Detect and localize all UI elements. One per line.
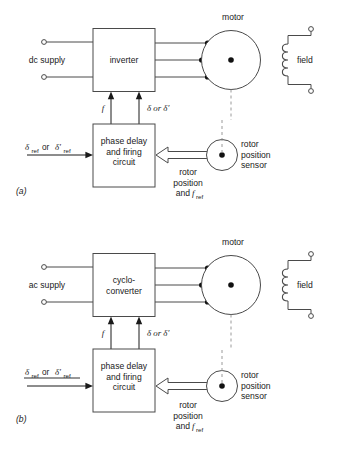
ref-first-subscript-b: ref [32,372,40,379]
ref-second-symbol-a: δ′ [55,142,62,152]
freq-arrow-head-a [108,92,114,100]
feedback-label-line2-a: position [173,178,203,188]
motor-label-a: motor [222,12,244,22]
sensor-label-line3-b: sensor [241,391,267,401]
sensor-center-a [219,152,225,158]
delta-arrow-head-a [136,92,142,100]
field-label-b: field [297,280,313,290]
supply-label-a: dc supply [29,55,66,65]
converter-label-line1-b: cyclo- [113,275,136,285]
feedback-label-line1-b: rotor [179,400,197,410]
motor-shaft-center-b [228,282,234,288]
diagram-panel-b: ac supply cyclo- converter motor field f… [0,225,339,449]
field-coil-a [282,44,288,76]
feedback-and-word-a: and [176,188,191,198]
sensor-label-line1-b: rotor [241,370,259,380]
field-coil-b [282,269,288,301]
figure-page: dc supply inverter motor field f δ or δ′… [0,0,339,449]
sensor-label-line3-a: sensor [241,160,267,170]
field-lead-top-a [288,31,311,44]
control-label-line3-a: circuit [113,157,136,167]
control-label-line2-b: and firing [106,372,142,382]
control-label-line3-b: circuit [113,382,136,392]
supply-terminal-bottom-a [42,75,47,80]
field-terminal-bottom-a [309,89,314,94]
control-label-line1-a: phase delay [101,136,148,146]
field-lead-bottom-a [288,76,311,89]
sensor-label-line2-b: position [241,381,271,391]
ref-input-label-b: δ ref or δ′ ref [25,367,71,379]
supply-label-b: ac supply [29,280,66,290]
converter-label-line2-b: converter [106,286,142,296]
feedback-block-arrow-a [156,147,208,163]
feedback-subscript-a: ref [196,193,204,200]
panel-caption-b: (b) [16,414,27,424]
panel-caption-a: (a) [16,186,27,196]
freq-arrow-head-b [108,317,114,325]
field-terminal-bottom-b [309,314,314,319]
ref-connector-b: or [42,368,50,377]
field-label-a: field [297,55,313,65]
feedback-subscript-b: ref [196,426,204,433]
supply-terminal-bottom-b [42,300,47,305]
sensor-label-line1-a: rotor [241,139,259,149]
diagram-panel-a: dc supply inverter motor field f δ or δ′… [0,0,339,225]
ref-input-label-a: δ ref or δ′ ref [25,142,71,154]
control-label-line2-a: and firing [106,147,142,157]
ref-first-subscript-a: ref [32,147,40,154]
field-terminal-top-b [309,252,314,257]
ref-second-subscript-b: ref [64,372,72,379]
ref-first-symbol-a: δ [25,142,30,152]
delta-arrow-head-b [136,317,142,325]
motor-shaft-center-a [228,57,234,63]
ref-input-arrow-head-a [85,152,93,158]
motor-label-b: motor [222,237,244,247]
ref-second-symbol-b: δ′ [55,367,62,377]
sensor-label-line2-a: position [241,150,271,160]
feedback-label-line3-b: and f ref [176,421,204,433]
feedback-label-line2-b: position [173,411,203,421]
ref-connector-a: or [42,143,50,152]
field-lead-top-b [288,256,311,269]
field-lead-bottom-b [288,301,311,314]
feedback-block-arrow-b [156,378,208,394]
feedback-and-word-b: and [176,421,191,431]
feedback-label-line3-a: and f ref [176,188,204,200]
feedback-label-line1-a: rotor [179,167,197,177]
ref-first-symbol-b: δ [25,367,30,377]
supply-terminal-top-b [42,265,47,270]
freq-symbol-b: f [102,328,106,338]
control-label-line1-b: phase delay [101,361,148,371]
freq-symbol-a: f [102,103,106,113]
supply-terminal-top-a [42,40,47,45]
ref-input-arrow-head-b [85,383,93,389]
sensor-center-b [219,383,225,389]
delta-symbol-a: δ or δ′ [147,103,170,113]
field-terminal-top-a [309,27,314,32]
ref-second-subscript-a: ref [64,147,72,154]
converter-label-a: inverter [110,55,139,65]
delta-symbol-b: δ or δ′ [147,328,170,338]
